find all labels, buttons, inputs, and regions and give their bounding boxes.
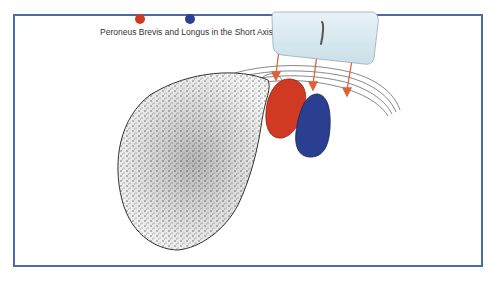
ultrasound-probe [272,12,378,64]
anatomy-illustration [0,0,497,281]
